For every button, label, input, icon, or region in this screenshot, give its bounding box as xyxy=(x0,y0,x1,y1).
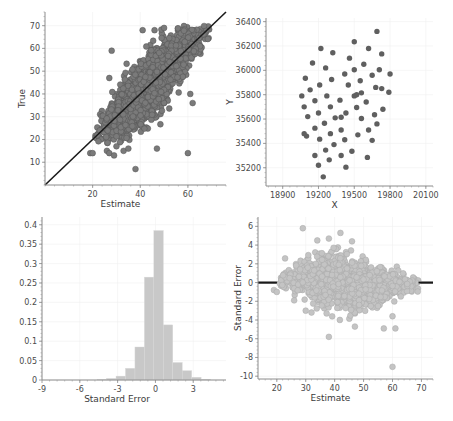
x-tick-label: 20 xyxy=(272,384,282,393)
data-point xyxy=(374,29,379,34)
data-point xyxy=(312,125,317,130)
data-point xyxy=(344,266,350,272)
data-point xyxy=(363,287,369,293)
data-point xyxy=(377,277,383,283)
histogram-bar xyxy=(182,371,191,380)
y-tick-label: 0.3 xyxy=(24,260,37,269)
data-point xyxy=(369,73,374,78)
data-point xyxy=(323,65,328,70)
data-point xyxy=(327,157,332,162)
outlier-point xyxy=(338,230,344,236)
y-tick-label: 0.2 xyxy=(24,298,37,307)
data-point xyxy=(312,153,317,158)
data-point xyxy=(336,262,342,268)
data-point xyxy=(349,149,354,154)
data-point xyxy=(279,282,285,288)
histogram-bar xyxy=(173,363,182,380)
data-point xyxy=(181,62,187,68)
x-axis-title: Standard Error xyxy=(84,394,150,404)
data-point xyxy=(374,121,379,126)
outlier-point xyxy=(114,143,120,149)
data-point xyxy=(330,50,335,55)
data-point xyxy=(391,299,397,305)
y-tick-label: 35800 xyxy=(236,91,261,100)
data-point xyxy=(359,90,364,95)
data-point xyxy=(354,92,359,97)
x-tick-label: 70 xyxy=(416,384,426,393)
y-tick-label: 6 xyxy=(248,222,253,231)
x-tick-label: 60 xyxy=(183,190,193,199)
data-point xyxy=(359,116,364,121)
y-tick-label: -10 xyxy=(240,372,253,381)
data-point xyxy=(387,71,392,76)
standard-error-vs-estimate-scatter: 203040506070-10-8-6-4-20246EstimateStand… xyxy=(233,217,433,403)
histogram-bar xyxy=(116,376,125,380)
x-axis-title: Estimate xyxy=(101,199,141,209)
outlier-point xyxy=(106,75,112,81)
data-point xyxy=(377,67,382,72)
data-point xyxy=(342,137,347,142)
y-tick-label: 0.4 xyxy=(24,221,37,230)
data-point xyxy=(297,267,303,273)
data-point xyxy=(316,110,321,115)
data-point xyxy=(337,255,343,261)
data-point xyxy=(326,253,332,259)
data-point xyxy=(157,121,163,127)
data-point xyxy=(344,251,350,257)
y-axis-title: Standard Error xyxy=(233,265,243,331)
data-point xyxy=(379,288,385,294)
x-tick-label: 20100 xyxy=(413,191,438,200)
data-point xyxy=(142,100,148,106)
data-point xyxy=(119,91,125,97)
outlier-point xyxy=(185,150,191,156)
data-point xyxy=(338,127,343,132)
data-point xyxy=(176,90,182,96)
outlier-point xyxy=(326,334,332,340)
data-point xyxy=(368,303,374,309)
outlier-point xyxy=(291,297,297,303)
data-point xyxy=(330,284,336,290)
data-point xyxy=(310,301,316,307)
y-tick-label: 36200 xyxy=(236,42,261,51)
data-point xyxy=(109,89,115,95)
data-point xyxy=(328,104,333,109)
data-point xyxy=(311,268,317,274)
data-point xyxy=(338,115,343,120)
data-point xyxy=(295,287,301,293)
data-point xyxy=(317,82,322,87)
data-point xyxy=(343,110,348,115)
x-tick-label: 20 xyxy=(88,190,98,199)
data-point xyxy=(337,97,342,102)
data-point xyxy=(305,265,311,271)
data-point xyxy=(159,108,165,114)
data-point xyxy=(319,257,325,263)
data-point xyxy=(183,56,189,62)
data-point xyxy=(312,98,317,103)
data-point xyxy=(347,55,352,60)
outlier-point xyxy=(349,238,355,244)
data-point xyxy=(374,268,380,274)
data-point xyxy=(142,74,148,80)
x-axis-title: X xyxy=(331,200,337,210)
x-axis-title: Estimate xyxy=(311,393,351,403)
data-point xyxy=(352,67,357,72)
data-point xyxy=(415,289,421,295)
data-point xyxy=(143,44,149,50)
y-tick-label: 60 xyxy=(30,44,40,53)
data-point xyxy=(182,39,188,45)
data-point xyxy=(348,307,354,313)
data-point xyxy=(181,28,187,34)
data-point xyxy=(361,277,367,283)
data-point xyxy=(335,293,341,299)
data-point xyxy=(331,142,336,147)
outlier-point xyxy=(187,91,193,97)
data-point xyxy=(378,294,384,300)
histogram-bar xyxy=(144,277,153,380)
data-point xyxy=(120,86,126,92)
data-point xyxy=(138,121,144,127)
data-point xyxy=(329,272,335,278)
y-tick-label: 0 xyxy=(248,279,253,288)
y-tick-label: 0.1 xyxy=(24,337,37,346)
x-tick-label: 50 xyxy=(358,384,368,393)
data-point xyxy=(369,138,374,143)
